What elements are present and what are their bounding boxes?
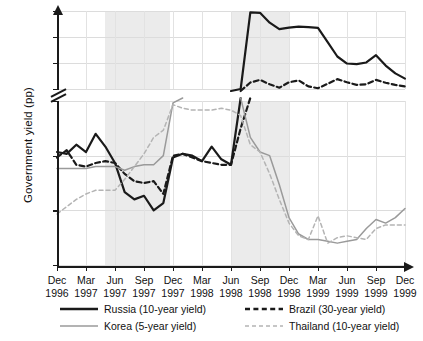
x-tick-mark-3: [144, 266, 145, 271]
y-tick-mark-48: [53, 11, 58, 12]
y-axis-title: Government yield (pp): [22, 50, 34, 240]
y-tick-mark-12: [53, 156, 58, 157]
y-axis-arrow: [53, 5, 63, 15]
x-tick-mark-10: [347, 266, 348, 271]
x-tick-mark-6: [231, 266, 232, 271]
legend-swatch-thailand: [245, 321, 283, 331]
lower-series-lines: [57, 101, 405, 265]
legend-label-brazil: Brazil (30-year yield): [289, 303, 385, 315]
x-tick-mark-5: [202, 266, 203, 271]
vgridline-12: [405, 101, 406, 265]
y-tick-mark-18: [53, 89, 58, 90]
legend-swatch-brazil: [245, 304, 283, 314]
x-tick-mark-8: [289, 266, 290, 271]
x-tick-mark-1: [86, 266, 87, 271]
y-tick-mark-38: [53, 37, 58, 38]
y-tick-mark-15: [53, 101, 58, 102]
x-axis-labels: Dec1996Mar1997Jun1997Sep1997Dec1997Mar19…: [57, 274, 405, 302]
x-tick-mark-11: [376, 266, 377, 271]
x-tick-mark-0: [57, 266, 58, 271]
legend-item-thailand: Thailand (10-year yield): [245, 320, 399, 332]
y-axis-spine-upper: [57, 14, 59, 90]
x-tick-mark-7: [260, 266, 261, 271]
x-tick-mark-9: [318, 266, 319, 271]
legend-label-korea: Korea (5-year yield): [104, 320, 196, 332]
y-tick-mark-28: [53, 63, 58, 64]
series-line-russia-lower: [57, 98, 241, 210]
x-tick-mark-4: [173, 266, 174, 271]
x-tick-mark-12: [405, 266, 406, 271]
upper-series-lines: [57, 11, 405, 89]
x-axis-label-12: Dec1999: [384, 274, 423, 299]
y-axis-spine-lower: [57, 101, 59, 267]
gridline-18: [57, 89, 405, 90]
series-line-thailand-lower: [57, 105, 405, 243]
series-line-brazil-lower: [57, 98, 250, 194]
legend-swatch-korea: [60, 321, 98, 331]
y-tick-mark-9: [53, 210, 58, 211]
legend-label-russia: Russia (10-year yield): [104, 303, 206, 315]
series-line-korea-lower: [241, 98, 405, 243]
vgridline-12: [405, 11, 406, 89]
upper-panel: [57, 11, 405, 89]
legend-item-korea: Korea (5-year yield): [60, 320, 196, 332]
legend-label-thailand: Thailand (10-year yield): [289, 320, 399, 332]
legend-swatch-russia: [60, 304, 98, 314]
series-line-korea-lower: [57, 98, 183, 170]
x-tick-mark-2: [115, 266, 116, 271]
lower-panel: [57, 101, 405, 265]
legend-item-brazil: Brazil (30-year yield): [245, 303, 385, 315]
series-line-russia-upper: [231, 12, 405, 91]
government-yield-chart: Government yield (pp) Dec1996Mar1997Jun1…: [0, 0, 423, 341]
y-tick-mark-6: [53, 265, 58, 266]
legend-item-russia: Russia (10-year yield): [60, 303, 206, 315]
